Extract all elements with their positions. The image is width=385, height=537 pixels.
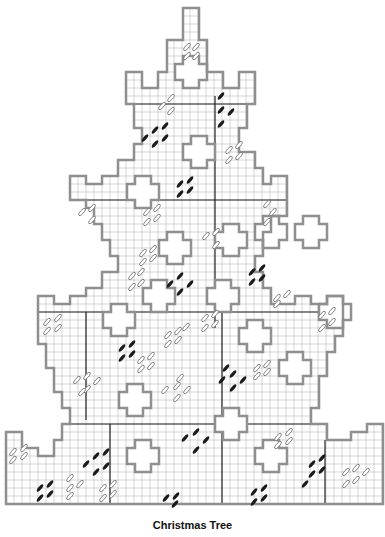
light-stitch bbox=[78, 207, 87, 216]
cross-cutout bbox=[295, 216, 327, 248]
christmas-tree-pattern-chart bbox=[0, 0, 385, 515]
tree-canvas bbox=[0, 0, 385, 515]
light-stitch bbox=[283, 289, 292, 298]
chart-title: Christmas Tree bbox=[0, 519, 385, 531]
